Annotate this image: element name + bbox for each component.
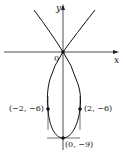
origin-label: 0 — [54, 55, 59, 63]
plot-svg — [0, 0, 124, 152]
y-axis-arrow-icon — [61, 4, 65, 10]
point-left-label: (−2, −6) — [9, 105, 44, 113]
point-bottom-label: (0, −9) — [65, 141, 93, 149]
x-axis-arrow-icon — [113, 50, 119, 54]
x-axis-label: x — [114, 56, 119, 65]
point-right-label: (2, −6) — [84, 105, 112, 113]
curve-figure: y x 0 (−2, −6) (2, −6) (0, −9) — [0, 0, 124, 152]
point-right — [78, 107, 82, 111]
curve-loop — [47, 79, 80, 138]
origin-marker — [62, 51, 65, 54]
curve-branch-left — [34, 10, 76, 79]
y-axis-label: y — [56, 4, 61, 13]
point-left — [46, 107, 50, 111]
